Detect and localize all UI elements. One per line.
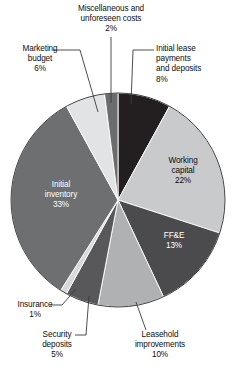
slice-callout-miscellaneous-line2: unforeseen costs [48, 14, 174, 24]
slice-callout-insurance-value: 1% [2, 310, 68, 320]
slice-label-working-capital-line2: capital [154, 166, 212, 176]
slice-label-working-capital: Working capital 22% [154, 156, 212, 187]
slice-callout-leasehold-improvements-value: 10% [118, 350, 202, 360]
slice-callout-leasehold-improvements: Leasehold improvements 10% [118, 330, 202, 361]
slice-label-initial-inventory-line2: inventory [28, 190, 94, 200]
slice-callout-initial-lease-payments-value: 8% [156, 75, 236, 85]
leader-line-leasehold-improvements [136, 302, 146, 330]
slice-callout-initial-lease-payments-line1: Initial lease [156, 44, 236, 54]
slice-callout-insurance-line1: Insurance [2, 300, 68, 310]
slice-callout-marketing-budget-line2: budget [4, 54, 76, 64]
slice-callout-miscellaneous: Miscellaneous and unforeseen costs 2% [48, 4, 174, 35]
slice-label-initial-inventory-value: 33% [28, 200, 94, 210]
slice-label-ffe-line1: FF&E [152, 231, 196, 241]
slice-label-ffe: FF&E 13% [152, 231, 196, 251]
slice-callout-security-deposits-line1: Security [26, 330, 88, 340]
slice-callout-security-deposits-line2: deposits [26, 340, 88, 350]
slice-callout-miscellaneous-value: 2% [48, 24, 174, 34]
slice-label-initial-inventory: Initial inventory 33% [28, 180, 94, 211]
slice-callout-initial-lease-payments-line3: and deposits [156, 64, 236, 74]
slice-callout-security-deposits: Security deposits 5% [26, 330, 88, 361]
slice-label-initial-inventory-line1: Initial [28, 180, 94, 190]
slice-callout-miscellaneous-line1: Miscellaneous and [48, 4, 174, 14]
slice-label-ffe-value: 13% [152, 241, 196, 251]
slice-callout-marketing-budget: Marketing budget 6% [4, 44, 76, 75]
slice-callout-leasehold-improvements-line2: improvements [118, 340, 202, 350]
pie-chart-figure: Miscellaneous and unforeseen costs 2% Ma… [0, 0, 240, 392]
slice-callout-initial-lease-payments: Initial lease payments and deposits 8% [156, 44, 236, 85]
slice-label-working-capital-line1: Working [154, 156, 212, 166]
slice-callout-marketing-budget-value: 6% [4, 64, 76, 74]
slice-callout-leasehold-improvements-line1: Leasehold [118, 330, 202, 340]
slice-callout-insurance: Insurance 1% [2, 300, 68, 320]
slice-callout-initial-lease-payments-line2: payments [156, 54, 236, 64]
slice-callout-marketing-budget-line1: Marketing [4, 44, 76, 54]
slice-callout-security-deposits-value: 5% [26, 350, 88, 360]
slice-label-working-capital-value: 22% [154, 176, 212, 186]
